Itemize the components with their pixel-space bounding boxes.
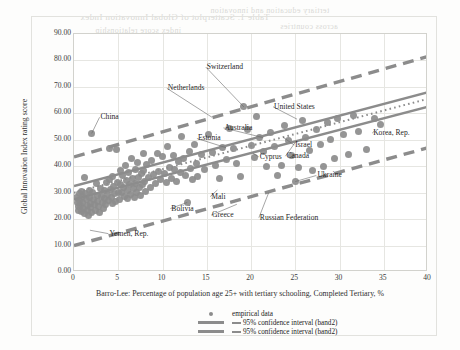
legend-item: 95% confidence interval (band2) — [196, 327, 337, 336]
y-axis-title: Global Innovation Index rating score — [20, 67, 29, 247]
legend-label: 95% confidence interval (band2) — [232, 328, 337, 336]
country-label: Russian Federation — [260, 214, 318, 222]
y-tick-label: 60.00 — [31, 108, 71, 116]
country-label: Israel — [295, 141, 312, 149]
leader-line — [167, 88, 212, 117]
country-label: Canada — [286, 152, 309, 160]
leader-line — [295, 175, 316, 181]
legend-label: 95% confidence interval (band2) — [232, 319, 337, 327]
legend-item: empirical data — [196, 309, 337, 318]
legend-line-icon — [196, 330, 226, 333]
legend-dash-icon — [232, 322, 241, 325]
country-label: Yemen, Rep. — [109, 230, 148, 238]
leader-line — [90, 230, 108, 233]
x-tick-label: 20 — [235, 274, 265, 282]
y-tick-label: 10.00 — [31, 241, 71, 249]
country-label: Netherlands — [168, 84, 205, 92]
ghost-text: tertiary education and innovation — [210, 6, 329, 15]
x-axis-title: Barro-Lee: Percentage of population age … — [40, 289, 440, 298]
y-tick-label: 20.00 — [31, 214, 71, 222]
x-tick-label: 10 — [147, 274, 177, 282]
leader-line — [253, 153, 259, 157]
y-tick-label: 90.00 — [31, 29, 71, 37]
legend-label: empirical data — [232, 310, 273, 318]
country-label: Cyprus — [260, 153, 282, 161]
country-label: Estonia — [198, 134, 221, 142]
leader-line — [92, 117, 100, 133]
country-label: China — [101, 113, 119, 121]
country-label: Ukraine — [317, 171, 341, 179]
x-tick-label: 25 — [279, 274, 309, 282]
x-tick-label: 15 — [191, 274, 221, 282]
x-tick-label: 0 — [58, 274, 88, 282]
y-tick-label: 30.00 — [31, 188, 71, 196]
legend-dash-icon — [232, 331, 241, 334]
country-label: Bolivia — [171, 205, 193, 213]
x-tick-label: 30 — [324, 274, 354, 282]
legend-dot-icon — [196, 312, 226, 316]
legend-line-icon — [196, 321, 226, 324]
chart-legend: empirical data95% confidence interval (b… — [196, 309, 337, 336]
country-label: Korea, Rep. — [373, 129, 409, 137]
leader-line — [283, 137, 294, 145]
y-axis-tick-labels: 0.0010.0020.0030.0040.0050.0060.0070.008… — [31, 33, 71, 271]
country-label: Switzerland — [207, 63, 243, 71]
country-label: Greece — [212, 211, 234, 219]
figure-container: Table 1. Scatterplot of Global Innovatio… — [0, 0, 460, 350]
x-axis-tick-labels: 0510152025303540 — [73, 274, 427, 288]
country-label: Mali — [211, 193, 225, 201]
y-tick-label: 50.00 — [31, 135, 71, 143]
x-tick-label: 40 — [412, 274, 442, 282]
leader-line — [206, 67, 244, 107]
y-tick-label: 40.00 — [31, 161, 71, 169]
legend-item: 95% confidence interval (band2) — [196, 318, 337, 327]
x-tick-label: 35 — [368, 274, 398, 282]
plot-area: ChinaSwitzerlandNetherlandsUnited States… — [73, 33, 427, 271]
x-tick-label: 5 — [102, 274, 132, 282]
y-tick-label: 80.00 — [31, 55, 71, 63]
country-label: United States — [274, 103, 315, 111]
country-label: Australia — [224, 124, 252, 132]
y-tick-label: 70.00 — [31, 82, 71, 90]
